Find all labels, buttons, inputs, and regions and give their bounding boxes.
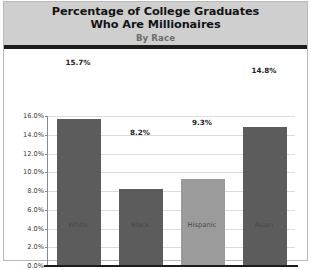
y-axis-tick-labels: 0.0%2.0%4.0%6.0%8.0%10.0%12.0%14.0%16.0% (12, 116, 44, 266)
bar-asian (243, 127, 288, 266)
y-axis-tick-label: 14.0% (23, 131, 44, 139)
y-axis-tick (45, 191, 48, 192)
y-axis-tick (45, 116, 48, 117)
y-axis-tick (45, 154, 48, 155)
y-axis-tick-label: 8.0% (27, 187, 44, 195)
chart-card: Percentage of College Graduates Who Are … (3, 1, 308, 261)
y-axis-tick (45, 247, 48, 248)
y-axis-tick-label: 16.0% (23, 112, 44, 120)
y-axis-tick (45, 172, 48, 173)
y-axis-tick (45, 210, 48, 211)
y-axis-tick-label: 12.0% (23, 150, 44, 158)
bar-value-label: 9.3% (172, 118, 232, 127)
bar-value-label: 8.2% (110, 128, 170, 137)
y-axis-tick-label: 10.0% (23, 168, 44, 176)
y-axis-tick (45, 135, 48, 136)
bar-value-label: 14.8% (234, 66, 294, 75)
y-axis-tick-label: 4.0% (27, 225, 44, 233)
chart-title-band: Percentage of College Graduates Who Are … (4, 2, 307, 49)
x-axis-baseline (44, 265, 298, 267)
y-axis-tick-label: 0.0% (27, 262, 44, 270)
x-axis-category-label: White (43, 221, 113, 229)
plot-area (47, 116, 295, 266)
x-axis-category-label: Hispanic (167, 221, 237, 229)
plot-region: 0.0%2.0%4.0%6.0%8.0%10.0%12.0%14.0%16.0%… (4, 53, 307, 262)
x-axis-category-label: Asian (229, 221, 299, 229)
bar-value-label: 15.7% (48, 58, 108, 67)
x-axis-category-label: Black (105, 221, 175, 229)
y-axis-tick-label: 6.0% (27, 206, 44, 214)
chart-subtitle: By Race (4, 33, 307, 43)
page-title: Percentage of College Graduates Who Are … (4, 6, 307, 31)
bar-white (57, 119, 102, 266)
y-axis-tick-label: 2.0% (27, 243, 44, 251)
